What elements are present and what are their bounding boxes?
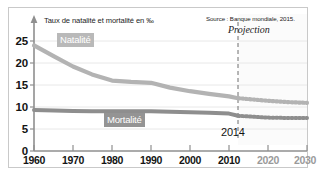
y-axis (31, 15, 38, 151)
y-tick-10: 10 (6, 101, 28, 113)
mortalite-line-projected (238, 116, 307, 118)
y-tick-15: 15 (6, 79, 28, 91)
x-tick-1980: 1980 (95, 154, 129, 166)
natalite-line-observed (34, 45, 238, 98)
x-tick-1970: 1970 (56, 154, 90, 166)
x-tick-2000: 2000 (173, 154, 207, 166)
x-tick-2010: 2010 (212, 154, 246, 166)
x-tick-1990: 1990 (134, 154, 168, 166)
source-note: Source : Banque mondiale, 2015. (206, 15, 295, 22)
projection-label: Projection (228, 24, 270, 35)
y-tick-25: 25 (6, 35, 28, 47)
x-tick-1960: 1960 (17, 154, 51, 166)
year-2014-label: 2014 (221, 126, 245, 138)
y-tick-20: 20 (6, 57, 28, 69)
chart-title: Taux de natalité et mortalité en ‰ (44, 16, 154, 25)
x-tick-2030: 2030 (288, 154, 318, 166)
y-tick-5: 5 (6, 123, 28, 135)
series-label-natalite: Natalité (57, 33, 94, 47)
series-label-mortalite: Mortalité (104, 113, 145, 127)
chart-canvas (0, 0, 318, 178)
x-tick-2020: 2020 (251, 154, 285, 166)
